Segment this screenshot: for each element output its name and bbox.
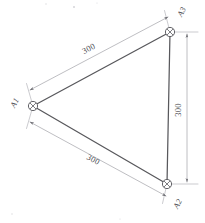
dimension-a3-a2: 300 [170,32,198,184]
edge-a2-a1 [33,106,167,184]
scan-artifacts [11,2,120,219]
dimension-line-a1-a3 [30,17,168,90]
technical-drawing-canvas: 300 300 300 A1 [0,0,205,223]
node-a1[interactable]: A1 [8,96,38,110]
dimension-a2-a1: 300 [27,106,168,204]
node-label-a1: A1 [8,96,21,110]
dimension-label-a2-a1: 300 [85,152,102,167]
node-label-a3: A3 [175,5,188,19]
node-label-a2: A2 [171,197,184,211]
edge-a3-a2 [167,32,170,184]
edge-a1-a3 [33,32,170,106]
dimension-label-a1-a3: 300 [80,41,97,56]
dimension-a1-a3: 300 [27,11,171,107]
dimension-label-a3-a2: 300 [173,103,183,117]
triangle-network-diagram: 300 300 300 A1 [0,0,205,223]
